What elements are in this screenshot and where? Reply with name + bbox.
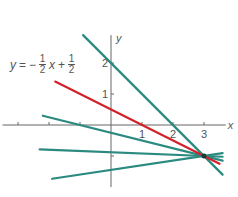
- eq-num-2: 1: [69, 54, 75, 64]
- intersection-point: [202, 154, 207, 159]
- eq-sign1: −: [29, 58, 36, 72]
- x-axis-label: x: [227, 119, 234, 131]
- teal-line: [52, 153, 223, 179]
- eq-var: x: [49, 58, 55, 72]
- equation-label: y = − 1 2 x + 1 2: [10, 54, 75, 75]
- eq-den-2: 2: [69, 65, 75, 75]
- y-tick-label: 1: [102, 88, 108, 100]
- eq-lhs: y: [10, 58, 16, 72]
- x-tick-label: 2: [170, 128, 176, 140]
- eq-den-1: 2: [40, 65, 46, 75]
- y-axis-label: y: [115, 32, 123, 44]
- eq-fraction-1: 1 2: [39, 54, 46, 75]
- x-tick-label: 3: [201, 128, 207, 140]
- eq-fraction-2: 1 2: [68, 54, 75, 75]
- eq-equals: =: [19, 58, 26, 72]
- eq-sign2: +: [58, 58, 65, 72]
- x-tick-label: 1: [139, 128, 145, 140]
- plot-area: 12312xy: [0, 0, 238, 197]
- eq-num-1: 1: [40, 54, 46, 64]
